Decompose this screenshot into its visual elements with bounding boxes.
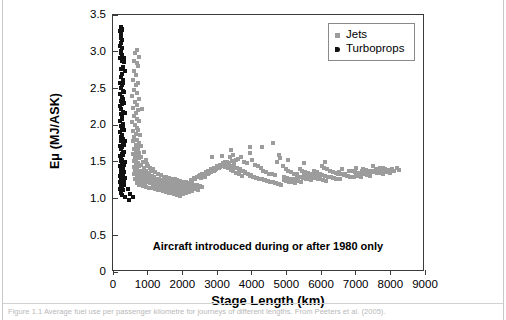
x-tick-mark [147, 270, 148, 275]
data-point [137, 55, 141, 59]
y-tick-label: 1.0 [90, 193, 113, 205]
data-point [397, 168, 401, 172]
x-axis-title: Stage Length (km) [112, 293, 424, 308]
data-point [138, 133, 142, 137]
data-point [200, 185, 204, 189]
data-point [200, 172, 204, 176]
y-tick-mark [113, 272, 118, 273]
x-tick-label: 3000 [204, 279, 230, 291]
data-point [130, 94, 134, 98]
x-tick-label: 5000 [274, 279, 300, 291]
data-point [134, 83, 138, 87]
data-point [134, 73, 138, 77]
data-point [119, 67, 123, 71]
data-point [354, 166, 358, 170]
data-point [131, 106, 135, 110]
x-tick-mark [113, 270, 114, 275]
x-tick-mark [251, 270, 252, 275]
y-tick-label: 3.5 [90, 9, 113, 21]
page-rule-left [2, 0, 3, 320]
y-tick-mark [113, 198, 118, 199]
y-tick-mark [113, 125, 118, 126]
data-point [293, 181, 297, 185]
x-tick-label: 7000 [343, 279, 369, 291]
data-point [348, 175, 352, 179]
data-point [260, 145, 264, 149]
data-point [334, 177, 338, 181]
plot-annotation: Aircraft introduced during or after 1980… [113, 240, 423, 252]
data-point [196, 188, 200, 192]
data-point [122, 60, 126, 64]
data-point [139, 155, 143, 159]
data-point [122, 90, 126, 94]
data-point [123, 139, 127, 143]
data-point [286, 158, 290, 162]
data-point [231, 153, 235, 157]
page-rule-right [503, 0, 504, 320]
legend-swatch-icon [335, 33, 340, 38]
data-point [338, 177, 342, 181]
data-point [250, 158, 254, 162]
x-tick-label: 1000 [135, 279, 161, 291]
data-point [181, 192, 185, 196]
data-point [323, 160, 327, 164]
y-tick-mark [113, 235, 118, 236]
y-tick-mark [113, 15, 118, 16]
data-point [220, 154, 224, 158]
data-point [210, 155, 214, 159]
data-point [121, 81, 125, 85]
x-tick-mark [355, 270, 356, 275]
y-tick-label: 1.5 [90, 156, 113, 168]
data-point [381, 172, 385, 176]
data-point [273, 173, 277, 177]
data-point [302, 161, 306, 165]
caption-divider [3, 303, 503, 304]
x-tick-mark [321, 270, 322, 275]
plot-area: 00.51.01.52.02.53.03.5 01000200030004000… [112, 14, 424, 271]
data-point [140, 107, 144, 111]
data-point [324, 179, 328, 183]
data-point [309, 178, 313, 182]
data-point [229, 148, 233, 152]
legend-label: Jets [346, 29, 367, 41]
y-tick-mark [113, 51, 118, 52]
y-tick-mark [113, 88, 118, 89]
data-point [121, 153, 125, 157]
data-point [126, 187, 130, 191]
data-point [368, 174, 372, 178]
y-tick-label: 3.0 [90, 46, 113, 58]
y-tick-label: 2.5 [90, 83, 113, 95]
x-tick-mark [425, 270, 426, 275]
data-point [122, 101, 126, 105]
data-point [120, 28, 124, 32]
y-tick-label: 2.0 [90, 119, 113, 131]
chart-legend: JetsTurboprops [328, 23, 415, 61]
y-tick-mark [113, 161, 118, 162]
data-point [142, 150, 146, 154]
data-point [122, 56, 126, 60]
data-point [388, 171, 392, 175]
figure-caption: Figure 1.1 Average fuel use per passenge… [8, 307, 498, 316]
data-point [278, 156, 282, 160]
legend-swatch-icon [335, 47, 340, 52]
data-point [137, 119, 141, 123]
x-tick-mark [217, 270, 218, 275]
data-point [186, 182, 190, 186]
data-point [299, 180, 303, 184]
data-point [132, 69, 136, 73]
x-tick-mark [286, 270, 287, 275]
data-point [277, 153, 281, 157]
figure-container: Eμ (MJ/ASK) 00.51.01.52.02.53.03.5 01000… [0, 0, 506, 320]
data-point [279, 183, 283, 187]
x-tick-label: 9000 [412, 279, 438, 291]
data-point [137, 97, 141, 101]
data-point [340, 167, 344, 171]
data-point [122, 128, 126, 132]
data-point [187, 190, 191, 194]
data-point [271, 141, 275, 145]
data-point [275, 160, 279, 164]
data-point [390, 167, 394, 171]
y-axis-title: Eμ (MJ/ASK) [48, 93, 62, 169]
x-tick-label: 0 [110, 279, 116, 291]
data-point [248, 145, 252, 149]
